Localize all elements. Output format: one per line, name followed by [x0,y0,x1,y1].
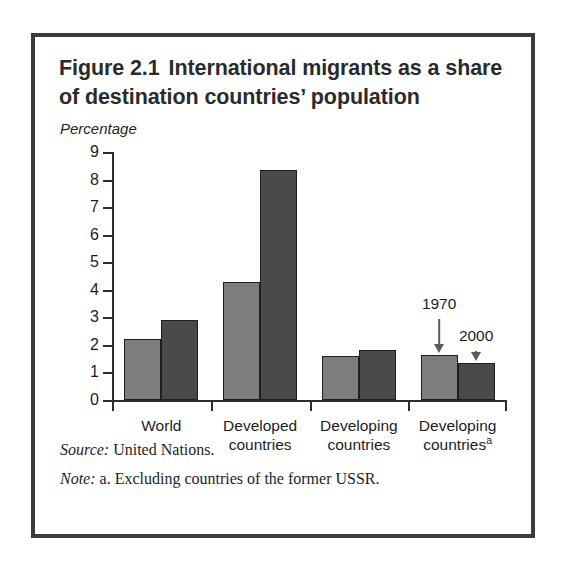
y-axis-tick-label: 7 [90,199,99,215]
x-axis-tick-mark [310,402,312,411]
y-axis-tick-mark [103,372,112,374]
y-axis-tick-label: 0 [90,392,99,408]
y-axis-tick-label: 6 [90,227,99,243]
y-axis-tick-label: 3 [90,309,99,325]
bar-2000-1 [161,320,198,400]
y-axis-tick-label: 2 [90,337,99,353]
note-text: a. Excluding countries of the former USS… [100,470,380,487]
x-axis-category-label: World [112,416,211,435]
source-text: United Nations. [113,441,214,458]
figure-title: Figure 2.1International migrants as a sh… [59,54,509,112]
y-axis-tick-mark [103,290,112,292]
x-axis-tick-mark [211,402,213,411]
bar-1970-3 [322,356,359,400]
bar-1970-4 [421,355,458,400]
y-axis-tick-mark [103,400,112,402]
annotation-label: 1970 [422,295,456,313]
figure-frame: Figure 2.1International migrants as a sh… [31,33,535,538]
chart-plot-inner: 0123456789 19702000 [112,152,507,402]
y-axis-tick-mark [103,235,112,237]
y-axis-tick-mark [103,152,112,154]
annotation-arrow-head [434,344,444,353]
y-axis-tick-label: 5 [90,254,99,270]
y-axis-line [112,152,114,402]
note-label: Note: [60,470,96,487]
y-axis-tick-label: 1 [90,364,99,380]
x-axis-tick-mark [112,402,114,411]
bar-2000-3 [359,350,396,400]
bar-1970-1 [124,339,161,400]
annotation-label: 2000 [459,327,493,345]
bar-2000-2 [260,170,297,400]
y-axis-tick-label: 8 [90,172,99,188]
x-axis-tick-mark [505,402,507,411]
y-axis-tick-mark [103,207,112,209]
x-axis-tick-mark [408,402,410,411]
y-axis-tick-mark [103,317,112,319]
y-axis-tick-label: 9 [90,144,99,160]
figure-source: Source: United Nations. [60,435,510,464]
bar-2000-4 [458,363,495,400]
annotation-arrow-head [471,352,481,361]
y-axis-tick-mark [103,345,112,347]
chart-plot-area: 0123456789 19702000 WorldDevelopedcountr… [82,152,507,402]
y-axis-unit-label: Percentage [60,120,137,137]
bar-1970-2 [223,282,260,400]
figure-note: Note: a. Excluding countries of the form… [60,464,510,493]
figure-notes: Source: United Nations. Note: a. Excludi… [60,435,510,493]
y-axis-tick-mark [103,180,112,182]
y-axis-tick-label: 4 [90,282,99,298]
annotation-arrow-stem [438,319,440,344]
source-label: Source: [60,441,109,458]
y-axis-tick-mark [103,262,112,264]
figure-title-number: Figure 2.1 [59,56,160,80]
